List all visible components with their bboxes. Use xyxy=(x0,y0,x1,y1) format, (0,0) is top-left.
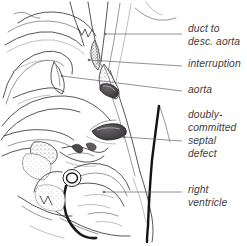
label-doubly-committed-septal-defect: doubly- committed septal defect xyxy=(188,109,239,159)
label-interruption: interruption xyxy=(188,58,241,69)
label-defect-line-2: committed xyxy=(188,122,237,133)
valve-detail xyxy=(60,143,108,167)
septal-defect-opening xyxy=(86,120,126,144)
upper-vessel-outlines xyxy=(5,12,96,54)
label-defect-line-1: doubly- xyxy=(188,109,223,120)
label-duct-line-1: duct to xyxy=(188,23,220,34)
branch-flap xyxy=(13,62,64,104)
leader-lines xyxy=(61,33,182,194)
label-aorta: aorta xyxy=(188,84,212,95)
label-aorta-line-1: aorta xyxy=(188,84,212,95)
label-duct-to-desc-aorta: duct to desc. aorta xyxy=(188,23,240,47)
annotation-labels: duct to desc. aorta interruption aorta d… xyxy=(188,23,241,208)
anatomical-figure: duct to desc. aorta interruption aorta d… xyxy=(0,0,247,246)
coronary-loop xyxy=(18,170,96,239)
leader-aorta xyxy=(61,75,182,91)
label-rv-line-1: right xyxy=(188,184,210,195)
leader-interruption xyxy=(88,59,182,66)
interruption-zone xyxy=(91,40,100,70)
duct-to-desc-aorta-structure xyxy=(70,2,176,82)
drawing-canvas: duct to desc. aorta interruption aorta d… xyxy=(0,0,247,246)
label-rv-line-2: ventricle xyxy=(188,197,227,208)
label-right-ventricle: right ventricle xyxy=(188,184,227,208)
label-duct-line-2: desc. aorta xyxy=(188,36,240,47)
label-defect-line-4: defect xyxy=(188,148,218,159)
label-interruption-line-1: interruption xyxy=(188,58,241,69)
catheter xyxy=(147,106,170,242)
label-defect-line-3: septal xyxy=(188,135,217,146)
